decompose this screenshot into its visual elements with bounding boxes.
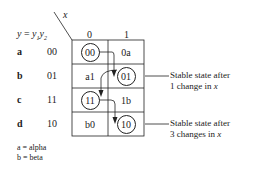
column-header-0: 0 — [87, 29, 92, 40]
cell-d-0: b0 — [72, 112, 108, 136]
legend: a = alpha b = beta — [17, 143, 46, 163]
row-name-c: c — [17, 94, 21, 105]
row-name-b: b — [17, 70, 23, 81]
cell-a-0: 00 — [72, 40, 108, 64]
stable-state-circle: 11 — [81, 91, 100, 110]
annotation-2-line1: Stable state after — [170, 118, 230, 129]
column-header-1: 1 — [124, 29, 129, 40]
equals-sign: = — [24, 28, 30, 39]
input-variable-label: x — [63, 9, 67, 20]
row-code-c: 11 — [47, 94, 57, 105]
cell-b-0: a1 — [72, 64, 108, 88]
row-name-a: a — [17, 46, 22, 57]
state-var-y: y — [17, 28, 21, 39]
state-variable-label: y = y1y2 — [17, 28, 47, 41]
row-code-b: 01 — [47, 70, 57, 81]
state-var-y1y2: y1y2 — [32, 28, 47, 39]
cell-a-1: 0a — [108, 40, 144, 64]
annotation-1-line2: 1 change in x — [170, 81, 230, 92]
legend-alpha: a = alpha — [17, 143, 46, 153]
cell-d-1: 10 — [108, 112, 144, 136]
stable-state-circle: 10 — [117, 115, 136, 134]
annotation-1-var: x — [214, 81, 218, 91]
row-code-d: 10 — [47, 118, 57, 129]
annotation-1: Stable state after 1 change in x — [170, 70, 230, 92]
annotation-1-line1: Stable state after — [170, 70, 230, 81]
cell-c-1: 1b — [108, 88, 144, 112]
cell-c-0: 11 — [72, 88, 108, 112]
annotation-1-text: 1 change in — [170, 81, 214, 91]
annotation-2-var: x — [217, 129, 221, 139]
annotation-2-text: 3 changes in — [170, 129, 217, 139]
row-name-d: d — [17, 118, 23, 129]
stable-state-circle: 01 — [117, 67, 136, 86]
annotation-2-line2: 3 changes in x — [170, 129, 230, 140]
legend-beta: b = beta — [17, 153, 46, 163]
annotation-2: Stable state after 3 changes in x — [170, 118, 230, 140]
stable-state-circle: 00 — [81, 43, 100, 62]
cell-b-1: 01 — [108, 64, 144, 88]
row-code-a: 00 — [47, 46, 57, 57]
